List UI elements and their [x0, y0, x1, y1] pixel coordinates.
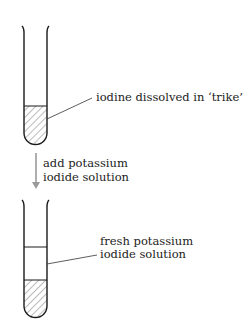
step-line-2: iodide solution	[43, 170, 130, 184]
leader-line-1	[47, 98, 92, 119]
label-fresh-ki-1: fresh potassium	[100, 234, 193, 248]
test-tube-1	[22, 26, 49, 146]
test-tube-2	[22, 200, 49, 320]
iodine-trike-layer	[24, 106, 47, 146]
label-iodine-trike: iodine dissolved in ‘trike’	[96, 90, 243, 104]
label-fresh-ki-2: iodide solution	[100, 247, 187, 261]
diagram-canvas: iodine dissolved in ‘trike’ add potassiu…	[0, 0, 250, 327]
leader-line-2	[47, 255, 97, 264]
step-line-1: add potassium	[43, 156, 128, 170]
down-arrow-icon	[32, 153, 40, 189]
